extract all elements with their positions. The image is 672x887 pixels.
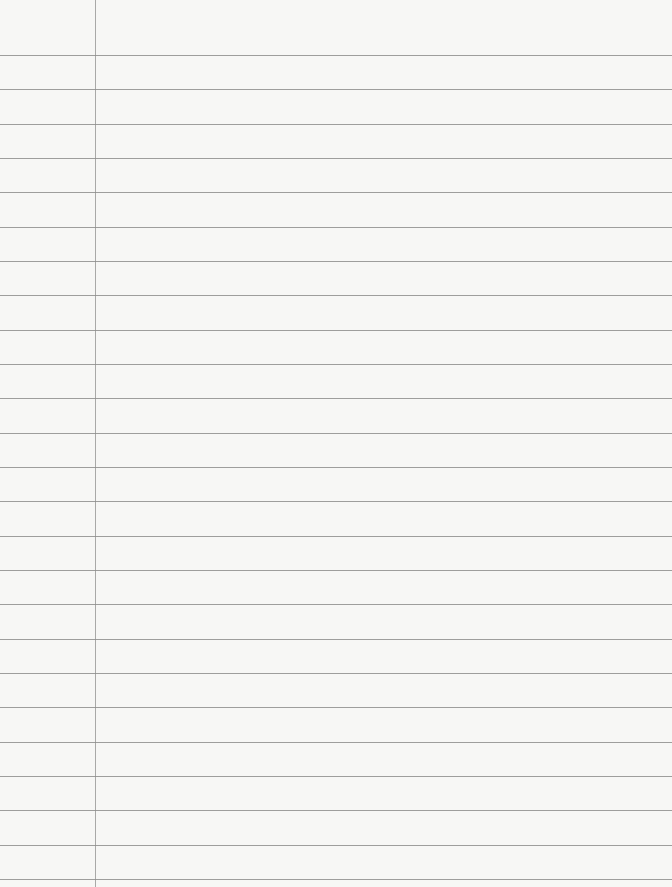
ruled-line	[0, 295, 672, 296]
ruled-line	[0, 673, 672, 674]
ruled-line	[0, 124, 672, 125]
ruled-line	[0, 158, 672, 159]
margin-line	[95, 0, 96, 887]
ruled-line	[0, 639, 672, 640]
ruled-line	[0, 707, 672, 708]
ruled-line	[0, 845, 672, 846]
ruled-line	[0, 742, 672, 743]
ruled-line	[0, 55, 672, 56]
ruled-line	[0, 879, 672, 880]
ruled-line	[0, 227, 672, 228]
ruled-line	[0, 398, 672, 399]
ruled-line	[0, 364, 672, 365]
ruled-line	[0, 330, 672, 331]
ruled-line	[0, 89, 672, 90]
ruled-line	[0, 604, 672, 605]
ruled-line	[0, 261, 672, 262]
ruled-line	[0, 433, 672, 434]
ruled-line	[0, 501, 672, 502]
ruled-line	[0, 467, 672, 468]
ruled-line	[0, 192, 672, 193]
lined-paper-sheet	[0, 0, 672, 887]
ruled-line	[0, 776, 672, 777]
ruled-line	[0, 810, 672, 811]
ruled-line	[0, 536, 672, 537]
ruled-line	[0, 570, 672, 571]
